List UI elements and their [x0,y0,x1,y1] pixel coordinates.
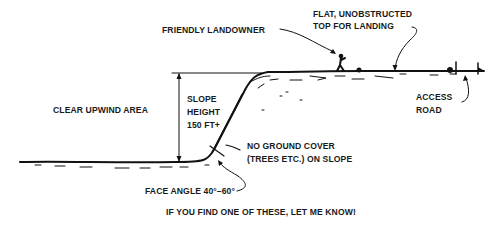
rock-shape [357,68,362,73]
friendly-landowner-label: FRIENDLY LANDOWNER [162,24,265,37]
clear-upwind-area-label: CLEAR UPWIND AREA [53,104,148,117]
access-road-label-line2: ROAD [416,104,442,117]
person-icon [337,54,345,71]
flat-top-label-line2: TOP FOR LANDING [313,20,394,33]
slope-height-label-line3: 150 FT+ [187,119,220,132]
diagram-caption: IF YOU FIND ONE OF THESE, LET ME KNOW! [166,206,356,219]
ground-line [20,160,203,162]
access-road-leader [462,78,469,102]
no-ground-cover-label-line1: NO GROUND COVER [247,140,335,153]
flat-top-leader [395,27,417,69]
access-road-label-line1: ACCESS [416,91,452,104]
slope-height-label-line2: HEIGHT [187,106,220,119]
face-angle-label: FACE ANGLE 40°–60° [145,185,235,198]
ridge-site-diagram: FRIENDLY LANDOWNER FLAT, UNOBSTRUCTED TO… [0,0,502,225]
fence-posts [456,62,483,74]
no-ground-cover-label-line2: (TREES ETC.) ON SLOPE [247,153,352,166]
slope-height-label-line1: SLOPE [187,93,217,106]
rock-shape [447,67,453,73]
